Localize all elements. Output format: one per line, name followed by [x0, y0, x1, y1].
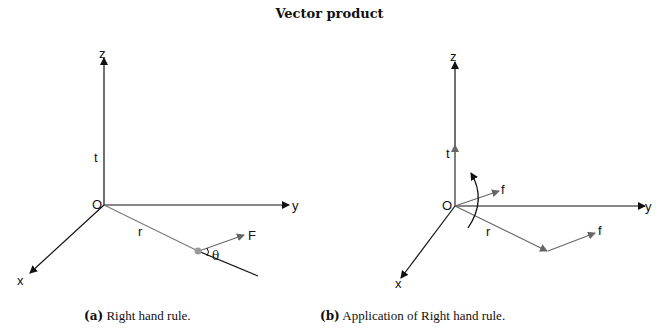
caption-b-text: Application of Right hand rule.: [342, 308, 505, 323]
t-label: t: [94, 150, 98, 165]
y-label: y: [292, 198, 299, 213]
r-extension: [198, 251, 258, 276]
force-origin-label: f: [501, 182, 505, 197]
force-vector-end: [548, 233, 595, 251]
force-label: F: [248, 228, 256, 243]
force-end-label: f: [598, 223, 602, 238]
caption-a: (a) Right hand rule.: [84, 308, 191, 324]
t-label: t: [446, 146, 450, 161]
force-vector: [199, 235, 244, 251]
x-label: x: [17, 273, 24, 288]
origin-label: O: [92, 197, 102, 212]
angle-label: θ: [212, 249, 219, 263]
r-vector: [104, 205, 198, 251]
z-label: z: [450, 49, 457, 64]
x-axis: [401, 206, 455, 278]
r-label: r: [138, 224, 143, 239]
caption-a-text: Right hand rule.: [106, 308, 190, 323]
origin-label: O: [442, 198, 452, 213]
panel-a-diagram: z y x O t r F θ: [17, 46, 299, 288]
x-label: x: [395, 276, 402, 291]
z-label: z: [99, 46, 106, 61]
force-vector-origin: [455, 191, 499, 206]
force-point: [195, 248, 202, 255]
caption-b: (b) Application of Right hand rule.: [320, 308, 505, 324]
caption-a-tag: (a): [84, 309, 103, 323]
y-label: y: [645, 199, 652, 214]
r-label: r: [486, 224, 491, 239]
x-axis: [30, 205, 104, 273]
diagram-canvas: z y x O t r F θ z y x O t r f f: [0, 0, 659, 330]
angle-arc: [207, 248, 209, 256]
r-vector: [455, 206, 547, 251]
caption-b-tag: (b): [320, 309, 340, 323]
panel-b-diagram: z y x O t r f f: [395, 49, 652, 291]
